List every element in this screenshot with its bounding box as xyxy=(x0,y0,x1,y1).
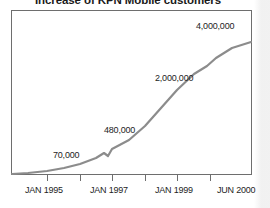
x-tick-label-jan-1999: JAN 1999 xyxy=(155,185,193,195)
x-tick-label-jan-1997: JAN 1997 xyxy=(90,185,128,195)
data-label-480000: 480,000 xyxy=(104,125,135,135)
x-tick-label-jun-2000: JUN 2000 xyxy=(217,185,255,195)
x-tick-label-jan-1995: JAN 1995 xyxy=(25,185,63,195)
chart-figure: Increase of KPN Mobile customers JAN 199… xyxy=(0,0,270,208)
x-axis-ticks xyxy=(48,175,211,181)
plot-frame xyxy=(12,11,252,175)
data-label-4000000: 4,000,000 xyxy=(196,21,234,31)
chart-plot-area xyxy=(0,0,270,208)
series-line-kpn-mobile-customers xyxy=(12,42,251,174)
data-label-70000: 70,000 xyxy=(53,150,79,160)
data-label-2000000: 2,000,000 xyxy=(155,73,193,83)
